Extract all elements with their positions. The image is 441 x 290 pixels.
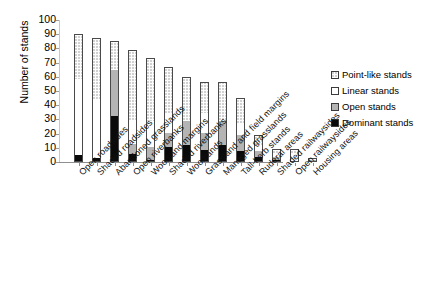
x-tick-mark xyxy=(115,163,116,166)
y-tick-label: 70 xyxy=(22,57,56,67)
y-tick-label: 20 xyxy=(22,128,56,138)
x-tick-mark xyxy=(169,163,170,166)
bar-segment xyxy=(93,38,100,98)
x-tick-mark xyxy=(295,163,296,166)
legend-label: Linear stands xyxy=(342,85,399,96)
x-tick-mark xyxy=(187,163,188,166)
x-tick-mark xyxy=(313,163,314,166)
legend-item[interactable]: Linear stands xyxy=(331,84,439,97)
x-tick-mark xyxy=(97,163,98,166)
y-tick-mark xyxy=(56,63,59,64)
x-tick-mark xyxy=(259,163,260,166)
y-tick-label: 30 xyxy=(22,113,56,123)
bar-segment xyxy=(201,82,208,112)
x-tick-mark xyxy=(277,163,278,166)
y-tick-mark xyxy=(56,134,59,135)
x-tick-mark xyxy=(241,163,242,166)
y-tick-mark xyxy=(56,77,59,78)
linear-swatch-icon xyxy=(331,87,339,95)
legend-item[interactable]: Point-like stands xyxy=(331,68,439,81)
y-tick-label: 60 xyxy=(22,71,56,81)
y-tick-mark xyxy=(56,105,59,106)
open-swatch-icon xyxy=(331,103,339,111)
legend-item[interactable]: Open stands xyxy=(331,100,439,113)
bar-segment xyxy=(111,70,118,115)
x-tick-mark xyxy=(205,163,206,166)
y-tick-label: 90 xyxy=(22,28,56,38)
y-tick-mark xyxy=(56,119,59,120)
chart-figure: Number of stands 0102030405060708090100 … xyxy=(0,0,441,290)
y-tick-mark xyxy=(56,91,59,92)
y-tick-mark xyxy=(56,162,59,163)
bar-segment xyxy=(75,34,82,78)
y-tick-label: 0 xyxy=(22,156,56,166)
y-tick-label: 100 xyxy=(22,14,56,24)
y-tick-mark xyxy=(56,48,59,49)
stacked-bar xyxy=(74,34,83,162)
y-tick-mark xyxy=(56,34,59,35)
bar-segment xyxy=(129,50,136,120)
stacked-bar xyxy=(92,38,101,162)
bar-segment xyxy=(237,98,244,124)
x-tick-mark xyxy=(223,163,224,166)
y-tick-mark xyxy=(56,20,59,21)
bar-segment xyxy=(165,67,172,113)
point-like-swatch-icon xyxy=(331,71,339,79)
x-tick-mark xyxy=(133,163,134,166)
bar-segment xyxy=(75,155,82,161)
x-tick-mark xyxy=(79,163,80,166)
bar-segment xyxy=(183,77,190,121)
y-tick-label: 80 xyxy=(22,42,56,52)
y-tick-mark xyxy=(56,148,59,149)
y-tick-label: 10 xyxy=(22,142,56,152)
legend-label: Open stands xyxy=(342,101,396,112)
x-tick-mark xyxy=(151,163,152,166)
bar-segment xyxy=(147,58,154,121)
bar-segment xyxy=(75,79,82,156)
y-tick-label: 50 xyxy=(22,85,56,95)
y-tick-label: 40 xyxy=(22,99,56,109)
bar-segment xyxy=(111,41,118,70)
y-axis-tick-labels: 0102030405060708090100 xyxy=(18,0,56,290)
legend-label: Point-like stands xyxy=(342,69,412,80)
